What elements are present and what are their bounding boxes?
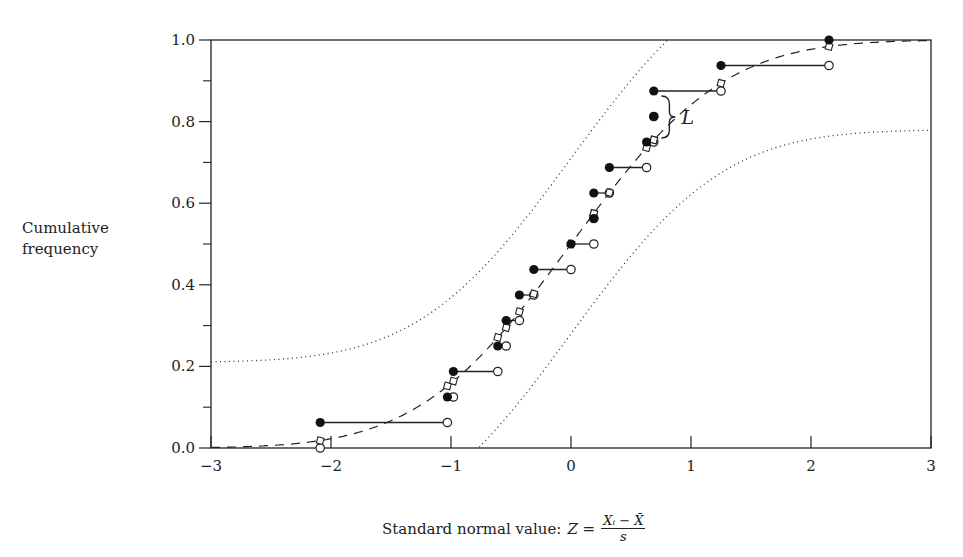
axes: 0.00.20.40.60.81.0−3−2−10123: [171, 31, 936, 475]
y-tick-label: 0.0: [171, 439, 195, 457]
fraction-numerator: Xᵢ − X̄: [601, 514, 645, 529]
x-axis-title: Standard normal value: Z = Xᵢ − X̄ s: [382, 514, 645, 543]
x-tick-label: −1: [440, 457, 462, 475]
x-tick-label: 3: [926, 457, 936, 475]
open-circle-marker: [642, 163, 650, 171]
open-circle-marker: [590, 240, 598, 248]
y-tick-label: 0.2: [171, 357, 195, 375]
y-tick-label: 0.8: [171, 113, 195, 131]
x-tick-label: 0: [566, 457, 576, 475]
open-circle-marker: [515, 316, 523, 324]
filled-circle-marker: [515, 290, 524, 299]
x-tick-label: 2: [806, 457, 816, 475]
x-tick-label: −3: [200, 457, 222, 475]
filled-circle-marker: [443, 392, 452, 401]
chart-canvas: 0.00.20.40.60.81.0−3−2−10123 L: [0, 0, 963, 557]
open-circle-marker: [717, 87, 725, 95]
fraction-denominator: s: [620, 529, 627, 543]
open-circle-marker: [502, 342, 510, 350]
filled-circle-marker: [589, 214, 598, 223]
lower-band-dotted-line: [211, 130, 931, 537]
x-tick-label: −2: [320, 457, 342, 475]
open-circle-marker: [825, 61, 833, 69]
filled-circle-marker: [642, 137, 651, 146]
y-axis-title-line2: frequency: [22, 239, 109, 260]
x-tick-label: 1: [686, 457, 696, 475]
open-circle-marker: [494, 367, 502, 375]
x-axis-title-z: Z =: [567, 520, 595, 538]
filled-circle-marker: [605, 163, 614, 172]
filled-circle-marker: [824, 35, 833, 44]
annotation: L: [661, 96, 694, 138]
y-tick-label: 0.6: [171, 194, 195, 212]
y-tick-label: 0.4: [171, 276, 195, 294]
filled-circle-marker: [649, 86, 658, 95]
filled-circle-marker: [716, 61, 725, 70]
filled-circle-marker: [502, 316, 511, 325]
filled-circle-marker: [316, 418, 325, 427]
upper-band-dotted-line: [211, 32, 931, 362]
y-axis-title: Cumulative frequency: [22, 218, 109, 260]
filled-circle-marker: [566, 239, 575, 248]
open-circle-marker: [316, 444, 324, 452]
open-circle-marker: [443, 418, 451, 426]
annotation-label-L: L: [680, 106, 694, 128]
x-axis-title-fraction: Xᵢ − X̄ s: [601, 514, 645, 543]
y-axis-title-line1: Cumulative: [22, 218, 109, 239]
filled-circle-marker: [589, 188, 598, 197]
y-tick-label: 1.0: [171, 31, 195, 49]
filled-circle-marker: [493, 341, 502, 350]
open-circle-marker: [567, 265, 575, 273]
markers: [314, 35, 835, 452]
filled-circle-marker: [449, 367, 458, 376]
x-axis-title-prefix: Standard normal value:: [382, 520, 561, 538]
filled-circle-marker: [529, 265, 538, 274]
brace-icon: [661, 96, 675, 138]
filled-circle-marker: [649, 112, 658, 121]
